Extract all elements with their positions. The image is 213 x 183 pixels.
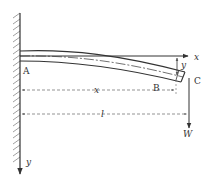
label-x-axis: x xyxy=(194,52,199,62)
label-length: l xyxy=(101,109,104,119)
label-load: W xyxy=(183,129,193,139)
deflected-beam xyxy=(20,51,185,82)
label-b: B xyxy=(153,83,160,93)
cantilever-beam-diagram: A B C x y y x l W xyxy=(0,0,213,183)
label-a: A xyxy=(22,66,30,76)
beam-bottom-edge xyxy=(20,61,181,82)
label-y-axis: y xyxy=(25,157,32,167)
label-x-distance: x xyxy=(94,85,99,95)
label-c: C xyxy=(194,76,201,86)
label-deflection: y xyxy=(180,60,187,70)
fixed-wall xyxy=(13,13,20,174)
section-b xyxy=(176,70,179,80)
wall-hatch xyxy=(13,13,20,162)
